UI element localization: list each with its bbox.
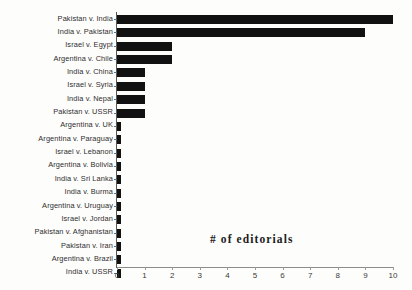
x-axis-tick	[283, 267, 284, 270]
category-label: Pakistan v. Afghanistan	[0, 228, 113, 236]
category-label: Israel v. Syria	[0, 81, 113, 89]
category-label: Pakistan v. Iran	[0, 242, 113, 250]
x-axis-tick-label: 8	[328, 271, 348, 280]
x-axis-title: # of editorials	[210, 233, 294, 245]
bar-row	[117, 160, 393, 173]
bar	[117, 68, 145, 77]
bar	[117, 82, 145, 91]
bar	[117, 215, 121, 224]
bar-row	[117, 173, 393, 186]
bar-row	[117, 133, 393, 146]
category-label: Israel v. Egypt	[0, 41, 113, 49]
bar-row	[117, 187, 393, 200]
bar	[117, 135, 121, 144]
x-axis-tick-label: 2	[162, 271, 182, 280]
bar-row	[117, 53, 393, 66]
category-label: India v. Burma	[0, 188, 113, 196]
bar	[117, 15, 393, 24]
category-label: Argentina v. UK	[0, 121, 113, 129]
category-label: Pakistan v. India	[0, 15, 113, 23]
category-label: Argentina v. Paraguay	[0, 135, 113, 143]
bar	[117, 202, 121, 211]
x-axis-tick-label: 9	[355, 271, 375, 280]
x-axis-tick-label: 0	[107, 271, 127, 280]
bar	[117, 149, 121, 158]
category-label: India v. USSR	[0, 268, 113, 276]
bar-chart-figure: Pakistan v. IndiaIndia v. PakistanIsrael…	[0, 0, 412, 290]
bar	[117, 175, 121, 184]
x-axis-tick-label: 6	[273, 271, 293, 280]
bar-row	[117, 213, 393, 226]
x-axis-tick	[145, 267, 146, 270]
bar-row	[117, 107, 393, 120]
category-label: India v. Nepal	[0, 95, 113, 103]
bar	[117, 229, 121, 238]
x-axis-tick-label: 10	[383, 271, 403, 280]
bar	[117, 28, 365, 37]
x-axis-tick	[255, 267, 256, 270]
bar-row	[117, 200, 393, 213]
category-label: Pakistan v. USSR	[0, 108, 113, 116]
x-axis-tick-label: 7	[300, 271, 320, 280]
x-axis-tick-label: 5	[245, 271, 265, 280]
category-label: Argentina v. Uruguay	[0, 202, 113, 210]
x-axis-tick	[172, 267, 173, 270]
bar-row	[117, 66, 393, 79]
bar-row	[117, 147, 393, 160]
x-axis-tick-label: 4	[217, 271, 237, 280]
x-axis-tick	[117, 267, 118, 270]
x-axis-tick-label: 3	[190, 271, 210, 280]
x-axis-tick	[200, 267, 201, 270]
bar	[117, 42, 172, 51]
category-label: India v. China	[0, 68, 113, 76]
category-label: Israel v. Lebanon	[0, 148, 113, 156]
category-label: India v. Sri Lanka	[0, 175, 113, 183]
x-axis-tick	[227, 267, 228, 270]
bar-row	[117, 120, 393, 133]
bar-row	[117, 13, 393, 26]
category-label: Argentina v. Bolivia	[0, 161, 113, 169]
x-axis-tick	[338, 267, 339, 270]
bar-row	[117, 80, 393, 93]
x-axis-tick-label: 1	[135, 271, 155, 280]
bar-row	[117, 93, 393, 106]
x-axis-tick	[365, 267, 366, 270]
bar-row	[117, 26, 393, 39]
plot-area	[117, 13, 393, 267]
bar	[117, 122, 121, 131]
category-label: Argentina v. Brazil	[0, 255, 113, 263]
x-axis-tick	[393, 267, 394, 270]
bar	[117, 162, 121, 171]
category-label: India v. Pakistan	[0, 28, 113, 36]
bar-row	[117, 40, 393, 53]
bar	[117, 55, 172, 64]
bar	[117, 189, 121, 198]
bar	[117, 242, 121, 251]
bar	[117, 255, 121, 264]
category-label: Israel v. Jordan	[0, 215, 113, 223]
bar-row	[117, 253, 393, 266]
category-label: Argentina v. Chile	[0, 55, 113, 63]
bar	[117, 95, 145, 104]
x-axis-tick	[310, 267, 311, 270]
bar	[117, 109, 145, 118]
